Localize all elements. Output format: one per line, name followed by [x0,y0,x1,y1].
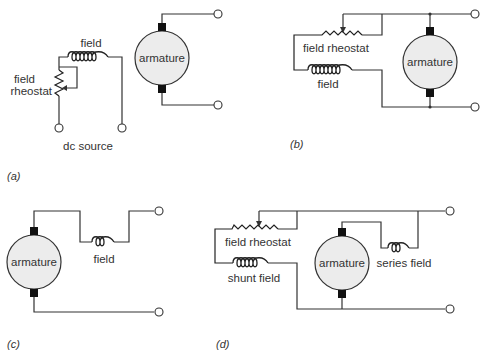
caption-b: (b) [290,138,304,150]
terminal [214,10,222,18]
diagram-b: field rheostat field armature (b) [290,10,479,150]
field-coil-a [68,52,108,61]
rheostat-a [55,70,63,96]
armature-c: armature [7,227,61,297]
armature-label: armature [319,257,365,269]
rheostat-label-line1: field [14,73,35,85]
armature-label: armature [11,256,57,268]
series-field-coil-d [388,243,409,252]
armature-d: armature [315,228,369,298]
source-label: dc source [63,140,113,152]
armature-a: armature [135,23,189,93]
rheostat-label: field rheostat [225,236,292,248]
shunt-label: shunt field [228,272,280,284]
series-label: series field [377,257,432,269]
terminal [214,101,222,109]
diagram-a: armature field field rheostat dc source … [7,10,222,182]
wiper-arrow-icon [62,85,67,91]
caption-a: (a) [7,170,21,182]
caption-c: (c) [7,338,20,350]
field-label: field [80,37,101,49]
armature-label: armature [407,56,453,68]
field-label: field [317,78,338,90]
shunt-field-coil [233,258,268,267]
diagram-c: armature field (c) [7,207,163,350]
series-field-coil-c [92,237,114,246]
armature-b: armature [403,14,457,107]
rheostat-label-line2: rheostat [10,85,52,97]
dc-motor-connection-diagrams: armature field field rheostat dc source … [0,0,483,355]
field-coil-b [308,65,352,74]
armature-label: armature [139,52,185,64]
diagram-d: field rheostat shunt field armature seri… [215,207,454,350]
caption-d: (d) [216,338,230,350]
rheostat-label: field rheostat [303,42,370,54]
field-label: field [93,253,114,265]
